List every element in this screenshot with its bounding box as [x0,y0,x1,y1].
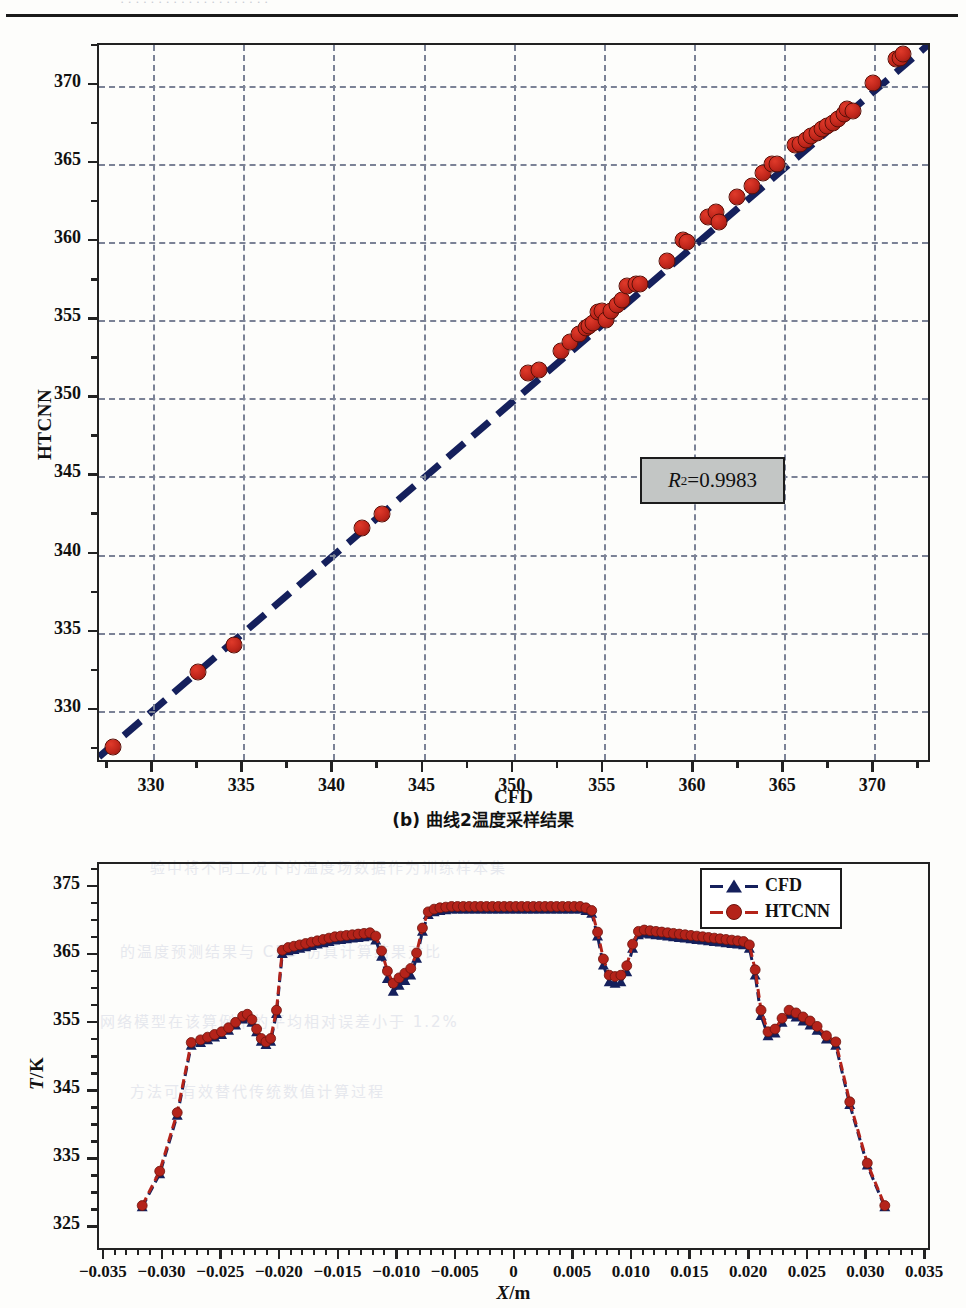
data-point [768,155,785,172]
x-tick-minor [642,1250,644,1255]
y-tick-minor [91,1038,97,1041]
x-tick-major [781,762,784,772]
y-tick-major [88,317,97,320]
x-tick-minor [916,762,919,768]
y-tick-major [87,885,97,888]
chart-parity-ylabel: HTCNN [34,389,56,460]
y-tick-minor [91,512,97,515]
y-tick-major [88,708,97,711]
x-tick-minor [501,1250,503,1255]
gridline-vertical [874,45,876,760]
x-tick-minor [360,1250,362,1255]
data-point [659,252,676,269]
series-marker [880,1201,890,1211]
series-marker [628,939,638,949]
x-tick-minor [583,1250,585,1255]
series-marker [382,966,392,976]
x-tick-minor [595,1250,597,1255]
x-tick-minor [559,1250,561,1255]
x-tick-minor [243,1250,245,1255]
series-marker [266,1034,276,1044]
y-tick-minor [91,1174,97,1177]
x-tick-minor [172,1250,174,1255]
y-tick-minor [91,970,97,973]
gridline-vertical [243,45,245,760]
legend-item-htcnn: HTCNN [710,901,830,922]
data-point [354,520,371,537]
y-tick-label: 325 [0,1213,80,1234]
series-marker [587,906,597,916]
y-tick-major [87,1157,97,1160]
y-tick-minor [91,200,97,203]
series-marker [155,1166,165,1176]
x-tick-minor [477,1250,479,1255]
x-tick-minor [372,1250,374,1255]
series-marker [377,946,387,956]
legend-item-cfd: CFD [710,875,830,896]
x-tick-major [747,1250,750,1259]
x-tick-minor [430,1250,432,1255]
y-tick-minor [91,1004,97,1007]
x-tick-major [601,762,604,772]
x-tick-minor [782,1250,784,1255]
data-point [105,738,122,755]
x-tick-major [630,1250,633,1259]
x-tick-minor [285,762,288,768]
x-tick-minor [466,1250,468,1255]
series-marker [812,1021,822,1031]
chart-parity-xlabel: CFD [97,786,930,808]
y-tick-major [88,239,97,242]
x-tick-minor [888,1250,890,1255]
x-tick-minor [900,1250,902,1255]
r2-symbol: R [668,468,681,493]
series-marker [412,948,422,958]
x-tick-minor [536,1250,538,1255]
r2-value: =0.9983 [687,468,757,493]
y-tick-minor [91,591,97,594]
x-tick-minor [442,1250,444,1255]
y-tick-minor [91,1072,97,1075]
series-marker [845,1097,855,1107]
y-tick-minor [91,669,97,672]
x-tick-major [688,1250,691,1259]
y-tick-label: 345 [0,461,81,482]
y-tick-label: 330 [0,696,81,717]
gridline-vertical [514,45,516,760]
series-marker [417,923,427,933]
y-tick-major [87,1225,97,1228]
x-tick-major [513,1250,516,1259]
chart-profile-ylabel: T/K [26,1057,48,1090]
y-tick-minor [91,987,97,990]
chart-profile-xlabel: X/m [97,1282,930,1304]
x-tick-minor [231,1250,233,1255]
x-tick-minor [876,1250,878,1255]
y-tick-minor [91,1123,97,1126]
x-tick-minor [724,1250,726,1255]
profile-ylabel-rest: /K [26,1057,47,1078]
x-tick-minor [375,762,378,768]
series-marker [272,1005,282,1015]
y-tick-label: 355 [0,1009,80,1030]
series-marker [744,940,754,950]
series-cfd [137,904,891,1212]
data-point [864,74,881,91]
x-tick-minor [548,1250,550,1255]
x-tick-minor [125,1250,127,1255]
x-tick-major [102,1250,105,1259]
x-tick-major [240,762,243,772]
x-tick-major [395,1250,398,1259]
x-tick-minor [149,1250,151,1255]
data-point [226,637,243,654]
clipped-top-text: · · · · · · · · · · · · · · · · · · · · [120,0,860,4]
x-tick-minor [348,1250,350,1255]
y-tick-minor [91,868,97,871]
x-tick-major [150,762,153,772]
y-tick-label: 360 [0,227,81,248]
x-tick-minor [653,1250,655,1255]
gridline-vertical [604,45,606,760]
x-tick-major [454,1250,457,1259]
x-tick-minor [207,1250,209,1255]
y-tick-minor [91,44,97,47]
data-point [844,102,861,119]
x-tick-minor [325,1250,327,1255]
